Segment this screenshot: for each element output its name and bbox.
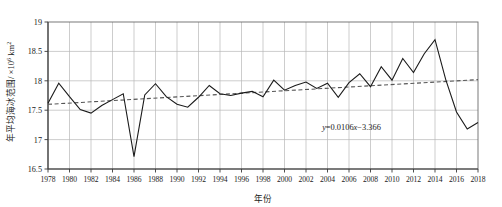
x-axis-ticks: 1978198019821984198619881990199219941996… — [40, 169, 485, 184]
y-tick-label: 18 — [34, 77, 42, 86]
x-tick-label: 2006 — [341, 175, 356, 184]
x-axis-title: 年份 — [254, 193, 272, 204]
x-tick-label: 1978 — [40, 175, 55, 184]
x-tick-label: 2002 — [298, 175, 313, 184]
x-tick-label: 2018 — [470, 175, 485, 184]
x-tick-label: 1986 — [126, 175, 141, 184]
y-tick-label: 18.5 — [28, 47, 42, 56]
x-tick-label: 2010 — [384, 175, 399, 184]
trend-equation-label: y=0.0106x−3.366 — [321, 123, 381, 132]
x-tick-label: 1988 — [148, 175, 163, 184]
x-tick-label: 1980 — [62, 175, 77, 184]
y-axis-ticks: 16.51717.51818.519 — [28, 18, 48, 174]
y-axis-title-unit-exponent: 2 — [5, 42, 12, 45]
eq-tail: −3.366 — [357, 123, 381, 132]
x-tick-label: 1982 — [83, 175, 98, 184]
chart-canvas: 16.51717.51818.519 197819801982198419861… — [0, 0, 502, 207]
x-tick-label: 2014 — [427, 175, 442, 184]
x-tick-label: 1996 — [234, 175, 249, 184]
x-tick-label: 1984 — [105, 175, 120, 184]
x-tick-label: 1990 — [169, 175, 184, 184]
x-tick-label: 1998 — [255, 175, 270, 184]
y-tick-label: 19 — [34, 18, 42, 27]
y-tick-label: 17.5 — [28, 106, 42, 115]
y-axis-title-unit: km — [6, 44, 16, 57]
y-tick-label: 17 — [34, 136, 42, 145]
eq-body: =0.0106 — [326, 123, 354, 132]
x-tick-label: 2004 — [320, 175, 335, 184]
y-axis-title-main: 年平均海冰范围/ ×10 — [5, 61, 16, 142]
x-tick-label: 2016 — [449, 175, 464, 184]
x-tick-label: 2000 — [277, 175, 292, 184]
y-tick-label: 16.5 — [28, 165, 42, 174]
x-tick-label: 1994 — [212, 175, 227, 184]
sea-ice-extent-line-chart: 16.51717.51818.519 197819801982198419861… — [0, 0, 502, 207]
y-axis-title: 年平均海冰范围/ ×106 km2 — [5, 42, 16, 142]
x-tick-label: 2012 — [406, 175, 421, 184]
x-tick-label: 1992 — [191, 175, 206, 184]
x-tick-label: 2008 — [363, 175, 378, 184]
